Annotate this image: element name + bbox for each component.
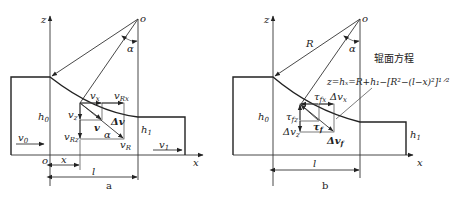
vx-label: vx: [90, 90, 100, 103]
angle-label: α: [127, 43, 134, 54]
roll-surface-title: 辊面方程: [374, 52, 414, 64]
panel-a: z x o o α vx vRx vz vRz v Δv α vR h0 h1: [11, 13, 203, 191]
caption-a: a: [106, 180, 112, 191]
vz-label: vz: [68, 109, 78, 122]
radius-label: R: [305, 38, 314, 49]
roll-center-label: o: [362, 13, 368, 24]
alpha-small-label: α: [104, 129, 111, 140]
vRx-label: vRx: [114, 90, 129, 103]
tfz-label: τfz: [286, 111, 298, 124]
vR-label: vR: [120, 139, 132, 152]
l-dim-label: l: [313, 158, 316, 169]
roll-surface-equation: z=hₓ=R+h₁−[R²−(l−x)²]¹ᐟ²: [326, 77, 450, 87]
angle-arc: [347, 38, 359, 41]
origin-label: o: [42, 155, 48, 166]
tfx-label: τfx: [314, 91, 326, 104]
angle-label: α: [349, 43, 356, 54]
h1-label: h1: [410, 129, 421, 142]
x-dim-label: x: [61, 154, 67, 165]
v-label: v: [94, 122, 100, 133]
dvz-label: Δvz: [282, 126, 300, 139]
radius-line: [275, 19, 360, 76]
vRz-label: vRz: [64, 131, 79, 144]
caption-b: b: [322, 180, 328, 191]
z-axis-label: z: [40, 14, 47, 25]
dvf-label: Δvf: [326, 135, 346, 148]
z-axis-label: z: [263, 14, 270, 25]
roll-center-label: o: [140, 13, 146, 24]
dvx-label: Δvx: [329, 91, 347, 104]
delta-v-label: Δv: [110, 116, 125, 127]
panel-b: z x o R α 辊面方程 z=hₓ=R+h₁−[R²−(l−x)²]¹ᐟ² …: [233, 13, 450, 191]
contact-radius-line: [80, 19, 138, 103]
h1-label: h1: [141, 124, 152, 137]
h0-label: h0: [38, 111, 49, 124]
radius-line: [52, 19, 138, 76]
l-dim-label: l: [92, 166, 95, 177]
x-axis-label: x: [193, 157, 199, 168]
v0-label: v0: [18, 132, 29, 145]
h0-label: h0: [258, 111, 269, 124]
x-axis-label: x: [417, 157, 423, 168]
rolling-diagram: z x o o α vx vRx vz vRz v Δv α vR h0 h1: [0, 0, 461, 202]
angle-arc: [125, 38, 137, 41]
